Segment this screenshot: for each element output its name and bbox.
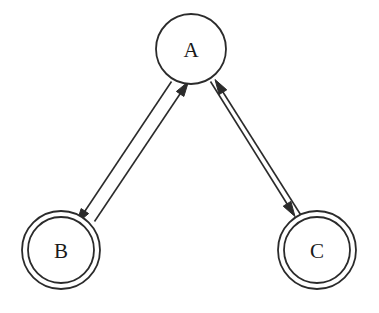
node-group: A B C [22, 14, 356, 289]
graph-svg: A B C [0, 0, 379, 313]
node-b-label: B [54, 239, 68, 263]
node-a-label: A [183, 38, 199, 62]
node-c[interactable]: C [278, 211, 356, 289]
edge-b-to-a[interactable] [95, 82, 189, 222]
edge-a-to-c[interactable] [211, 82, 296, 217]
edge-c-to-a-line [221, 89, 301, 215]
edge-c-to-a[interactable] [215, 80, 301, 215]
node-b[interactable]: B [22, 211, 100, 289]
edge-a-to-b-line [83, 82, 172, 215]
edge-b-to-a-line [95, 91, 183, 222]
node-c-label: C [310, 239, 324, 263]
node-a[interactable]: A [156, 14, 226, 84]
diagram-canvas: A B C [0, 0, 379, 313]
edge-a-to-c-line [211, 82, 290, 208]
edge-group [77, 80, 301, 224]
edge-a-to-b[interactable] [77, 82, 172, 224]
